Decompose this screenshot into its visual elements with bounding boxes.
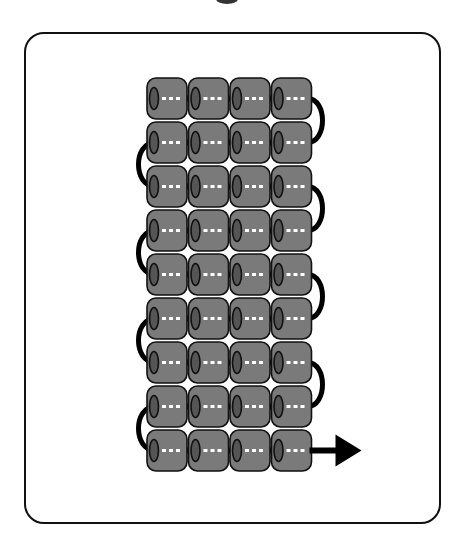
bead-hole <box>191 308 200 330</box>
bead-hole <box>150 352 159 374</box>
bead-hole <box>233 176 242 198</box>
bead-hole <box>233 88 242 110</box>
bead-hole <box>274 352 283 374</box>
bead-hole <box>150 88 159 110</box>
bead-hole <box>233 308 242 330</box>
bead-pattern-diagram <box>0 0 468 556</box>
bead-hole <box>274 176 283 198</box>
arrow-right-icon <box>336 435 362 467</box>
bead-hole <box>274 220 283 242</box>
bead-hole <box>191 88 200 110</box>
bead-hole <box>274 88 283 110</box>
bead-hole <box>150 308 159 330</box>
bead-hole <box>191 352 200 374</box>
bead-hole <box>233 132 242 154</box>
bead-hole <box>150 132 159 154</box>
bead-hole <box>274 440 283 462</box>
bead-hole <box>191 396 200 418</box>
bead-hole <box>150 220 159 242</box>
bead-hole <box>274 308 283 330</box>
bead-hole <box>191 264 200 286</box>
bead-hole <box>191 220 200 242</box>
bead-hole <box>274 396 283 418</box>
bead-hole <box>233 440 242 462</box>
bead-hole <box>150 440 159 462</box>
bead-hole <box>274 264 283 286</box>
bead-hole <box>233 264 242 286</box>
arrow-shaft <box>310 448 340 454</box>
bead-hole <box>274 132 283 154</box>
bead-hole <box>150 264 159 286</box>
bead-hole <box>191 176 200 198</box>
bead-hole <box>191 132 200 154</box>
bead-hole <box>233 220 242 242</box>
bead-hole <box>233 352 242 374</box>
bead-hole <box>233 396 242 418</box>
bead-hole <box>191 440 200 462</box>
bead-hole <box>150 396 159 418</box>
bead-hole <box>150 176 159 198</box>
